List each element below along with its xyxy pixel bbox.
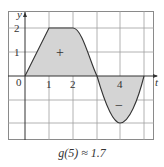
y-tick-2: 2	[14, 22, 20, 34]
origin-label: 0	[16, 76, 22, 88]
y-axis-arrow-icon	[23, 12, 27, 17]
y-axis-label: y	[16, 8, 22, 20]
area-chart: y t 0 1 2 4 1 2 + −	[0, 0, 164, 167]
caption: g(5) ≈ 1.7	[0, 146, 164, 161]
plus-sign: +	[56, 45, 64, 60]
t-axis-label: t	[155, 76, 159, 88]
x-tick-4: 4	[117, 78, 123, 90]
y-tick-1: 1	[14, 46, 20, 58]
x-tick-1: 1	[46, 78, 52, 90]
x-tick-2: 2	[70, 78, 76, 90]
minus-sign: −	[115, 98, 123, 113]
